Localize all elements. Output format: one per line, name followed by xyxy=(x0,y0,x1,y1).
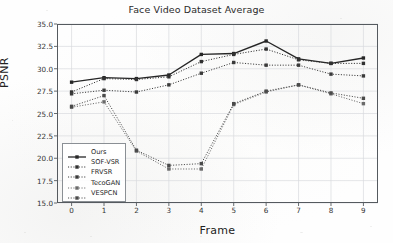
data-point-marker xyxy=(135,78,138,81)
scan-artifact xyxy=(12,120,13,121)
data-point-marker xyxy=(264,63,267,66)
data-point-marker xyxy=(200,162,203,165)
data-point-marker xyxy=(362,56,365,59)
data-point-marker xyxy=(264,89,267,92)
data-point-marker xyxy=(329,91,332,94)
series-line-sof-vsr xyxy=(72,49,364,92)
data-point-marker xyxy=(70,105,73,108)
legend-item-vespcn: VESPCN xyxy=(67,188,120,198)
data-point-marker xyxy=(362,74,365,77)
data-point-marker xyxy=(232,102,235,105)
chart-figure: Face Video Dataset Average PSNR Frame 15… xyxy=(0,0,393,243)
data-point-marker xyxy=(362,102,365,105)
scan-artifact xyxy=(370,226,372,227)
data-point-marker xyxy=(329,62,332,65)
data-point-marker xyxy=(362,62,365,65)
legend-line-sample-icon xyxy=(67,157,87,167)
legend-item-tecogan: TecoGAN xyxy=(67,178,120,188)
data-point-marker xyxy=(297,83,300,86)
chart-series-lines xyxy=(0,0,393,243)
series-line-ours xyxy=(72,41,364,82)
data-point-marker xyxy=(135,149,138,152)
chart-legend: OursSOF-VSRFRVSRTecoGANVESPCN xyxy=(62,143,126,202)
data-point-marker xyxy=(167,164,170,167)
data-point-marker xyxy=(102,77,105,80)
data-point-marker xyxy=(200,72,203,75)
scan-artifact xyxy=(24,232,26,233)
legend-line-sample-icon xyxy=(67,178,87,188)
scan-artifact xyxy=(90,236,92,237)
data-point-marker xyxy=(135,90,138,93)
data-point-marker xyxy=(200,60,203,63)
data-point-marker xyxy=(167,167,170,170)
data-point-marker xyxy=(232,53,235,56)
legend-item-sof-vsr: SOF-VSR xyxy=(67,157,120,167)
data-point-marker xyxy=(362,97,365,100)
legend-label: FRVSR xyxy=(91,168,112,176)
data-point-marker xyxy=(264,39,267,42)
data-point-marker xyxy=(102,100,105,103)
scan-artifact xyxy=(340,18,342,19)
legend-label: VESPCN xyxy=(91,189,117,197)
data-point-marker xyxy=(70,92,73,95)
legend-item-frvsr: FRVSR xyxy=(67,167,120,177)
data-point-marker xyxy=(329,72,332,75)
legend-line-sample-icon xyxy=(67,167,87,177)
data-point-marker xyxy=(167,75,170,78)
data-point-marker xyxy=(264,47,267,50)
legend-label: SOF-VSR xyxy=(91,158,119,166)
legend-label: Ours xyxy=(91,148,107,156)
scan-artifact xyxy=(200,236,202,237)
data-point-marker xyxy=(297,63,300,66)
data-point-marker xyxy=(200,167,203,170)
legend-line-sample-icon xyxy=(67,147,87,157)
data-point-marker xyxy=(102,89,105,92)
legend-line-sample-icon xyxy=(67,188,87,198)
scan-artifact xyxy=(46,10,48,11)
data-point-marker xyxy=(232,61,235,64)
data-point-marker xyxy=(102,94,105,97)
legend-item-ours: Ours xyxy=(67,147,120,157)
data-point-marker xyxy=(70,80,73,83)
data-point-marker xyxy=(167,83,170,86)
data-point-marker xyxy=(297,58,300,61)
data-point-marker xyxy=(200,53,203,56)
legend-label: TecoGAN xyxy=(91,179,120,187)
scan-artifact xyxy=(300,232,303,233)
